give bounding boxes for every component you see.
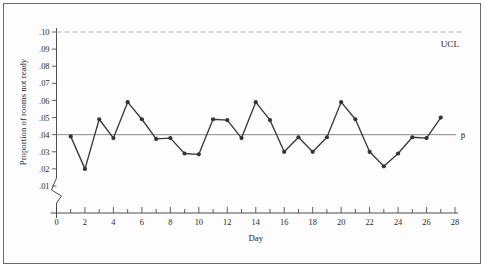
control-chart-figure: .01.02.03.04.05.06.07.08.09.10 024681012… bbox=[0, 0, 484, 267]
x-tick-label: 20 bbox=[337, 218, 345, 227]
data-point-marker bbox=[83, 167, 87, 171]
x-tick-label: 12 bbox=[223, 218, 231, 227]
pbar-annotation-label: p̄ bbox=[461, 130, 466, 140]
data-point-marker bbox=[126, 100, 130, 104]
x-tick-label: 14 bbox=[252, 218, 261, 227]
data-point-marker bbox=[339, 100, 343, 104]
x-tick-label: 6 bbox=[140, 218, 144, 227]
x-tick-label: 16 bbox=[280, 218, 288, 227]
data-point-marker bbox=[396, 151, 400, 155]
data-series-line bbox=[71, 102, 441, 169]
data-point-marker bbox=[239, 136, 243, 140]
ucl-annotation-label: UCL bbox=[441, 39, 460, 49]
data-point-marker bbox=[140, 117, 144, 121]
data-point-marker bbox=[353, 117, 357, 121]
y-tick-label: .05 bbox=[39, 114, 49, 123]
data-point-marker bbox=[368, 150, 372, 154]
data-point-marker bbox=[268, 118, 272, 122]
x-tick-label: 18 bbox=[308, 218, 316, 227]
y-tick-label: .04 bbox=[39, 131, 50, 140]
x-tick-label: 26 bbox=[422, 218, 430, 227]
chart-canvas: .01.02.03.04.05.06.07.08.09.10 024681012… bbox=[0, 0, 484, 267]
reference-lines bbox=[57, 32, 463, 135]
x-tick-label: 8 bbox=[168, 218, 172, 227]
x-tick-label: 28 bbox=[451, 218, 459, 227]
data-point-marker bbox=[282, 150, 286, 154]
data-point-marker bbox=[97, 117, 101, 121]
data-point-marker bbox=[69, 134, 73, 138]
data-point-marker bbox=[111, 136, 115, 140]
x-tick-label: 4 bbox=[111, 218, 116, 227]
data-point-marker bbox=[254, 100, 258, 104]
y-tick-label: .07 bbox=[39, 79, 49, 88]
x-axis: 0246810121416182022242628 bbox=[51, 207, 460, 227]
x-tick-label: 22 bbox=[365, 218, 373, 227]
data-point-marker bbox=[439, 115, 443, 119]
y-tick-label: .10 bbox=[39, 28, 49, 37]
data-point-marker bbox=[311, 150, 315, 154]
x-tick-label: 2 bbox=[83, 218, 87, 227]
y-axis-title: Proportion of rooms not ready bbox=[18, 58, 28, 165]
data-point-marker bbox=[211, 117, 215, 121]
data-point-marker bbox=[197, 152, 201, 156]
data-point-marker bbox=[424, 136, 428, 140]
y-tick-label: .01 bbox=[39, 182, 49, 191]
data-point-marker bbox=[325, 135, 329, 139]
y-tick-label: .02 bbox=[39, 165, 49, 174]
y-axis: .01.02.03.04.05.06.07.08.09.10 bbox=[39, 28, 61, 218]
y-tick-label: .08 bbox=[39, 62, 49, 71]
data-point-marker bbox=[382, 164, 386, 168]
y-tick-label: .06 bbox=[39, 97, 49, 106]
proportion-series-polyline bbox=[71, 102, 441, 169]
x-tick-label: 0 bbox=[54, 218, 58, 227]
data-point-marker bbox=[168, 136, 172, 140]
data-point-marker bbox=[225, 118, 229, 122]
x-axis-title: Day bbox=[248, 233, 263, 243]
x-tick-label: 24 bbox=[394, 218, 403, 227]
data-point-marker bbox=[410, 135, 414, 139]
x-tick-label: 10 bbox=[195, 218, 203, 227]
y-tick-label: .09 bbox=[39, 45, 49, 54]
data-point-marker bbox=[154, 137, 158, 141]
data-point-marker bbox=[296, 135, 300, 139]
y-tick-label: .03 bbox=[39, 148, 49, 157]
data-point-marker bbox=[182, 151, 186, 155]
